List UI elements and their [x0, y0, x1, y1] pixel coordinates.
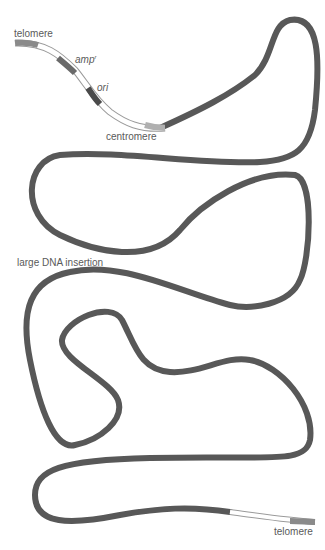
label-ori: ori: [97, 83, 108, 93]
label-telomere-bottom: telomere: [274, 527, 313, 537]
yac-diagram: [0, 0, 325, 550]
label-telomere-top: telomere: [14, 29, 53, 39]
telomere-top-segment: [15, 43, 38, 45]
telomere-bottom-segment: [290, 521, 315, 522]
dna-insertion-strand: [26, 20, 317, 521]
label-large-dna-insertion: large DNA insertion: [17, 258, 103, 268]
centromere-segment: [145, 125, 165, 128]
label-amp: ampr: [75, 54, 96, 65]
label-centromere: centromere: [106, 132, 157, 142]
